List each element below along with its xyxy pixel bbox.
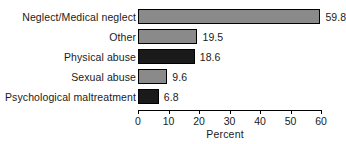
x-axis-tick	[230, 110, 231, 114]
bar	[138, 49, 195, 64]
x-axis-tick-label: 50	[279, 115, 303, 127]
x-axis-title-text: Percent	[206, 128, 244, 140]
x-axis-tick-label: 20	[187, 115, 211, 127]
x-axis-tick-label: 0	[126, 115, 150, 127]
x-axis-tick-label: 10	[157, 115, 181, 127]
bar-chart: Neglect/Medical neglect Other Physical a…	[0, 0, 346, 144]
x-axis-title: Percent	[0, 128, 346, 140]
x-axis-tick	[291, 110, 292, 114]
bar	[138, 89, 159, 104]
bar-value-label: 18.6	[200, 52, 221, 63]
category-label: Neglect/Medical neglect	[22, 12, 136, 23]
x-axis-tick-label: 30	[218, 115, 242, 127]
x-axis-tick	[169, 110, 170, 114]
x-axis-tick-label: 40	[248, 115, 272, 127]
category-label: Other	[109, 32, 136, 43]
bar	[138, 9, 320, 24]
bar-value-label: 59.8	[325, 12, 346, 23]
x-axis-tick	[260, 110, 261, 114]
category-label: Sexual abuse	[71, 72, 136, 83]
category-label: Psychological maltreatment	[5, 92, 136, 103]
bar-value-label: 9.6	[172, 72, 187, 83]
category-label: Physical abuse	[64, 52, 136, 63]
bar-value-label: 6.8	[164, 92, 179, 103]
bar-value-label: 19.5	[202, 32, 223, 43]
bar	[138, 29, 197, 44]
x-axis-tick	[199, 110, 200, 114]
bar	[138, 69, 167, 84]
x-axis-tick-label: 60	[309, 115, 333, 127]
x-axis-tick	[321, 110, 322, 114]
x-axis-tick	[138, 110, 139, 114]
